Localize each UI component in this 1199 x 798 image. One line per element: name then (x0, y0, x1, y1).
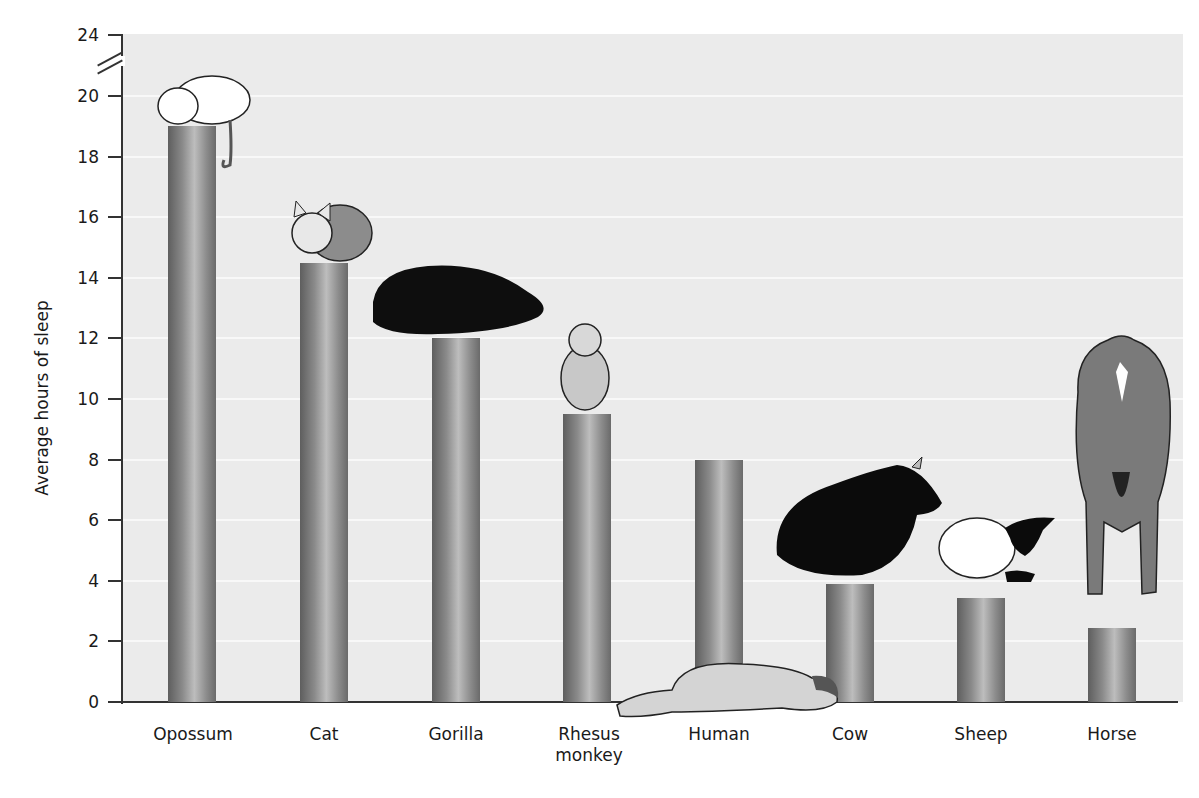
y-tick-label: 6 (4, 510, 99, 530)
x-label-opossum: Opossum (123, 724, 263, 745)
y-tick (108, 216, 122, 218)
horse-illustration (1068, 332, 1176, 612)
y-tick-label: 2 (4, 631, 99, 651)
y-axis-label: Average hours of sleep (32, 300, 52, 496)
x-label-human: Human (649, 724, 789, 745)
gridline-12 (123, 337, 1183, 339)
human-illustration (612, 650, 844, 720)
gridline-20 (123, 95, 1183, 97)
x-label-gorilla: Gorilla (386, 724, 526, 745)
sheep-illustration (935, 510, 1060, 585)
bar-sheep (957, 598, 1005, 702)
y-tick (108, 580, 122, 582)
y-tick (108, 640, 122, 642)
y-tick (108, 34, 122, 36)
y-tick (108, 156, 122, 158)
bar-cat (300, 263, 348, 702)
y-tick (108, 459, 122, 461)
plot-area (123, 34, 1183, 702)
bar-rhesus-monkey (563, 414, 611, 702)
y-tick (108, 519, 122, 521)
y-tick-label: 0 (4, 692, 99, 712)
x-label-cow: Cow (780, 724, 920, 745)
gridline-18 (123, 156, 1183, 158)
bar-gorilla (432, 338, 480, 702)
bar-horse (1088, 628, 1136, 702)
y-tick (108, 398, 122, 400)
x-label-sheep: Sheep (911, 724, 1051, 745)
y-tick-label: 20 (4, 86, 99, 106)
gridline-8 (123, 459, 1183, 461)
y-tick (108, 337, 122, 339)
y-tick (108, 701, 122, 703)
cat-illustration (282, 195, 377, 267)
opossum-illustration (150, 70, 255, 175)
gridline-2 (123, 640, 1183, 642)
rhesus-monkey-illustration (553, 318, 618, 418)
y-tick-label: 16 (4, 207, 99, 227)
x-label-horse: Horse (1042, 724, 1182, 745)
y-tick-label: 4 (4, 571, 99, 591)
x-label-cat: Cat (254, 724, 394, 745)
y-axis-line (121, 34, 123, 704)
y-tick (108, 277, 122, 279)
cow-illustration (772, 455, 947, 580)
y-tick-label: 18 (4, 147, 99, 167)
y-tick-label: 14 (4, 268, 99, 288)
y-tick-label: 24 (4, 25, 99, 45)
gridline-14 (123, 277, 1183, 279)
bar-opossum (168, 126, 216, 702)
y-tick (108, 95, 122, 97)
gridline-10 (123, 398, 1183, 400)
x-label-rhesus-monkey: Rhesus monkey (519, 724, 659, 766)
x-label-rhesus-line1: Rhesus (558, 724, 620, 744)
x-label-rhesus-line2: monkey (555, 745, 623, 765)
gorilla-illustration (368, 262, 553, 340)
